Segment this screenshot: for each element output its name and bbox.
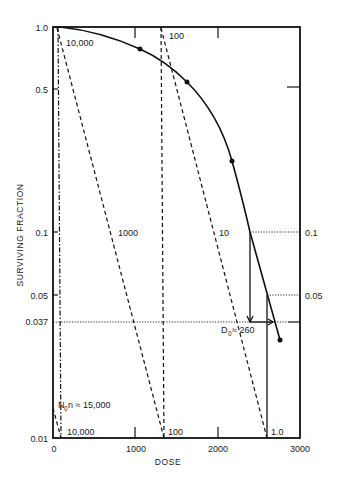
y-tick-label: 0.037 bbox=[25, 317, 48, 327]
y-axis-title: SURVIVING FRACTION bbox=[15, 183, 25, 286]
data-point bbox=[185, 80, 190, 85]
label-bottom-10000: 10,000 bbox=[67, 427, 95, 437]
y-tick-label: 0.1 bbox=[35, 228, 48, 238]
line-n0n-segment bbox=[53, 408, 61, 438]
y-tick-label: 1.0 bbox=[35, 23, 48, 33]
n0n-rest: n ≈ 15,000 bbox=[68, 400, 110, 410]
annotation-d0: D 0 ≈ 260 bbox=[221, 325, 254, 337]
d0-d: D bbox=[221, 325, 228, 335]
x-tick-label: 0 bbox=[51, 444, 56, 454]
y-tick-label: 0.01 bbox=[30, 434, 48, 444]
y-tick-label: 0.5 bbox=[35, 85, 48, 95]
label-bottom-100: 100 bbox=[168, 427, 183, 437]
y-tick-label: 0.05 bbox=[30, 291, 48, 301]
label-mid-10: 10 bbox=[219, 228, 229, 238]
right-label-0.05: 0.05 bbox=[305, 291, 323, 301]
line-10000-vertical bbox=[58, 27, 61, 438]
x-tick-label: 3000 bbox=[290, 444, 310, 454]
survival-chart: 1.0 0.5 0.1 0.05 0.037 0.01 0.1 0.05 0 1… bbox=[0, 0, 338, 478]
right-label-0.1: 0.1 bbox=[305, 228, 318, 238]
d0-rest: ≈ 260 bbox=[232, 325, 254, 335]
survival-curve bbox=[53, 27, 280, 340]
label-mid-1000: 1000 bbox=[118, 228, 138, 238]
label-top-10000: 10,000 bbox=[66, 38, 94, 48]
data-point bbox=[230, 159, 235, 164]
line-1000-slanted bbox=[57, 28, 164, 438]
annotation-n0n: N 0 n ≈ 15,000 bbox=[58, 400, 110, 412]
line-100-vertical bbox=[161, 27, 164, 438]
x-tick-label: 1000 bbox=[126, 444, 146, 454]
plot-frame bbox=[53, 27, 300, 438]
data-point bbox=[138, 47, 143, 52]
data-point bbox=[278, 338, 283, 343]
label-top-100: 100 bbox=[169, 31, 184, 41]
label-bottom-1.0: 1.0 bbox=[271, 427, 284, 437]
x-tick-label: 2000 bbox=[208, 444, 228, 454]
x-axis-title: DOSE bbox=[155, 457, 182, 467]
